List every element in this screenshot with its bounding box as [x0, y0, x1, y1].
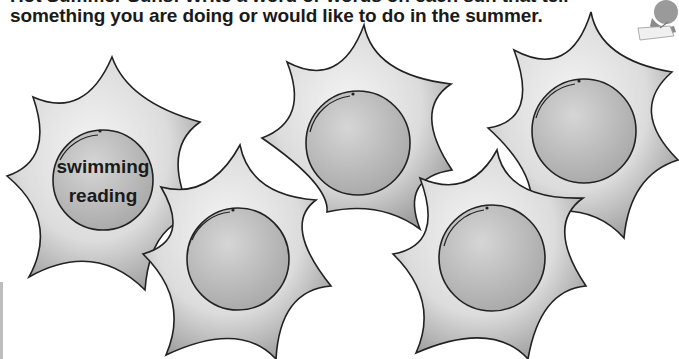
sun-1-word-2: reading [53, 181, 153, 210]
sun-1-text: swimming reading [53, 152, 153, 210]
page-edge-divider [0, 282, 3, 359]
sun-1-word-1: swimming [53, 152, 153, 181]
person-writing-icon [630, 0, 679, 42]
